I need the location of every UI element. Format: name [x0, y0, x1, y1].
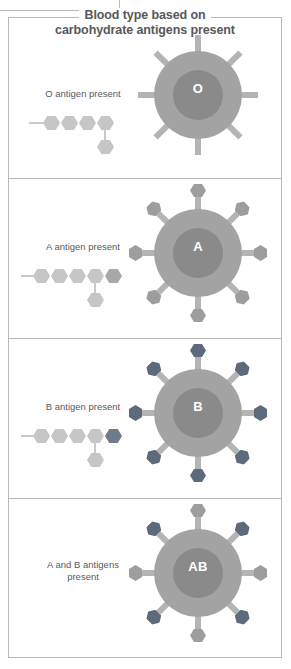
- panel-blood-type-ab: A and B antigens present AB: [9, 499, 281, 658]
- red-blood-cell-a: A: [154, 209, 242, 297]
- chain-sugar: [51, 269, 68, 283]
- antigen-chain-b: [21, 429, 141, 469]
- chain-sugar: [79, 116, 96, 130]
- chain-stem: [21, 275, 35, 277]
- chain-sugar: [97, 116, 114, 130]
- chain-sugar: [69, 429, 86, 443]
- chain-sugar-branch: [87, 453, 104, 467]
- chain-sugar: [51, 429, 68, 443]
- figure-frame: Blood type based on carbohydrate antigen…: [8, 17, 282, 658]
- chain-sugar: [61, 116, 78, 130]
- chain-sugar: [43, 116, 60, 130]
- cell-letter-ab: AB: [154, 559, 242, 574]
- panel-label-ab-line2: present: [67, 571, 99, 582]
- chain-sugar: [33, 429, 50, 443]
- antigen-chain-a: [21, 269, 141, 309]
- panel-label-o: O antigen present: [27, 88, 139, 100]
- chain-branch-link: [94, 282, 96, 294]
- cell-letter-a: A: [154, 239, 242, 254]
- panel-blood-type-o: O antigen present O: [9, 18, 281, 179]
- chain-branch-link: [104, 129, 106, 141]
- chain-stem: [29, 122, 45, 124]
- panel-blood-type-a: A antigen present A: [9, 179, 281, 339]
- cell-letter-b: B: [154, 399, 242, 414]
- chain-sugar-branch: [97, 140, 114, 154]
- chain-sugar-terminal-a: [105, 269, 122, 283]
- chain-sugar-branch: [87, 293, 104, 307]
- panel-label-ab: A and B antigens present: [27, 559, 139, 583]
- red-blood-cell-o: O: [154, 51, 242, 139]
- chain-sugar: [33, 269, 50, 283]
- cell-letter-o: O: [154, 81, 242, 96]
- chain-sugar: [69, 269, 86, 283]
- panel-label-b: B antigen present: [27, 401, 139, 413]
- chain-sugar-terminal-b: [105, 429, 122, 443]
- panel-label-a: A antigen present: [27, 241, 139, 253]
- chain-sugar: [87, 269, 104, 283]
- red-blood-cell-ab: AB: [154, 529, 242, 617]
- chain-sugar: [87, 429, 104, 443]
- panel-label-ab-line1: A and B antigens: [47, 559, 119, 570]
- chain-stem: [21, 435, 35, 437]
- chain-branch-link: [94, 442, 96, 454]
- panel-blood-type-b: B antigen present B: [9, 339, 281, 499]
- antigen-chain-o: [29, 116, 139, 156]
- red-blood-cell-b: B: [154, 369, 242, 457]
